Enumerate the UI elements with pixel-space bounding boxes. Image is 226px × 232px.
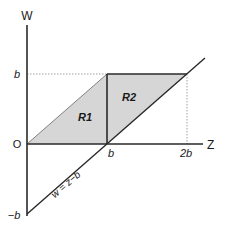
tick-z-b: b xyxy=(108,147,114,159)
line-equation-label: w = z−b xyxy=(49,168,83,200)
region-r2-label: R2 xyxy=(122,91,136,103)
tick-z-2b: 2b xyxy=(179,147,192,159)
tick-w-neg-b: −b xyxy=(8,209,21,221)
region-r1-label: R1 xyxy=(78,111,92,123)
origin-label: O xyxy=(13,138,22,150)
diagram-canvas: W Z O b −b b 2b R1 R2 w = z−b xyxy=(0,0,226,232)
tick-w-b: b xyxy=(14,68,20,80)
z-axis-label: Z xyxy=(207,138,214,152)
w-axis-label: W xyxy=(21,9,33,23)
